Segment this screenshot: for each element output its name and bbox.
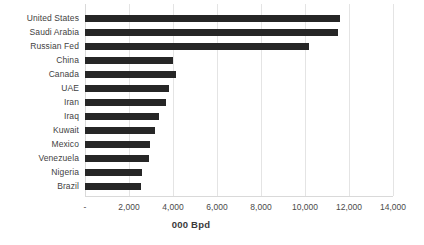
- category-label: Iraq: [64, 109, 79, 123]
- x-axis-title-text: 000 Bpd: [172, 219, 210, 230]
- category-label: UAE: [61, 81, 79, 95]
- bar: [85, 183, 141, 190]
- bar: [85, 85, 169, 92]
- bar-chart: United StatesSaudi ArabiaRussian FedChin…: [0, 0, 424, 245]
- plot-area: United StatesSaudi ArabiaRussian FedChin…: [85, 4, 393, 196]
- category-label: Canada: [49, 67, 79, 81]
- bar: [85, 15, 340, 22]
- bar: [85, 113, 159, 120]
- bar: [85, 141, 150, 148]
- bar: [85, 169, 142, 176]
- bar: [85, 57, 173, 64]
- bar-row: Venezuela: [85, 151, 393, 165]
- x-axis-line: [85, 196, 393, 197]
- category-label: Mexico: [51, 137, 79, 151]
- bar: [85, 71, 176, 78]
- bar-row: Kuwait: [85, 123, 393, 137]
- gridline: [393, 4, 394, 196]
- category-label: Iran: [64, 95, 79, 109]
- bar-row: Iran: [85, 95, 393, 109]
- x-tick-label: 4,000: [162, 200, 183, 214]
- bar-row: UAE: [85, 81, 393, 95]
- bar-row: Iraq: [85, 109, 393, 123]
- bar-row: Canada: [85, 67, 393, 81]
- x-axis-title: 000 Bpd: [0, 219, 424, 230]
- category-label: Brazil: [57, 179, 79, 193]
- category-label: China: [56, 53, 79, 67]
- bar: [85, 43, 309, 50]
- bar-row: Nigeria: [85, 165, 393, 179]
- bar-row: Mexico: [85, 137, 393, 151]
- x-axis-tick-labels: -2,0004,0006,0008,00010,00012,00014,000: [0, 200, 424, 214]
- x-tick-label: 6,000: [206, 200, 227, 214]
- bar-row: Saudi Arabia: [85, 25, 393, 39]
- bar-row: Brazil: [85, 179, 393, 193]
- x-tick-label: -: [84, 200, 87, 214]
- bar: [85, 127, 155, 134]
- bar: [85, 99, 166, 106]
- x-tick-label: 8,000: [250, 200, 271, 214]
- category-label: Venezuela: [38, 151, 79, 165]
- category-label: Nigeria: [51, 165, 79, 179]
- bar: [85, 29, 338, 36]
- x-tick-label: 2,000: [118, 200, 139, 214]
- x-tick-label: 14,000: [380, 200, 406, 214]
- category-label: Kuwait: [53, 123, 79, 137]
- x-tick-label: 10,000: [292, 200, 318, 214]
- category-label: United States: [27, 11, 79, 25]
- bar-row: China: [85, 53, 393, 67]
- x-tick-label: 12,000: [336, 200, 362, 214]
- bar-row: Russian Fed: [85, 39, 393, 53]
- bar: [85, 155, 149, 162]
- category-label: Russian Fed: [30, 39, 79, 53]
- bar-row: United States: [85, 11, 393, 25]
- category-label: Saudi Arabia: [30, 25, 79, 39]
